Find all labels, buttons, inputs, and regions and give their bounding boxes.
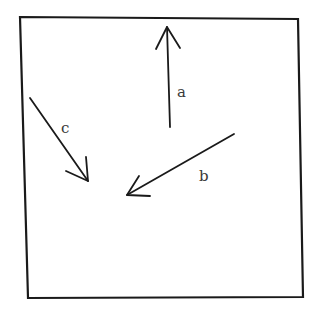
arrow-b: b	[127, 134, 234, 196]
arrow-b-label: b	[199, 167, 209, 185]
bounding-box-frame	[20, 17, 303, 298]
arrow-c-shaft	[30, 98, 88, 181]
arrow-a-shaft	[167, 27, 170, 127]
arrow-c: c	[30, 98, 88, 181]
arrow-a: a	[156, 27, 186, 127]
vector-diagram: a b c	[0, 0, 325, 312]
arrow-c-label: c	[61, 119, 69, 137]
arrow-a-label: a	[177, 83, 186, 101]
arrow-b-shaft	[127, 134, 234, 195]
